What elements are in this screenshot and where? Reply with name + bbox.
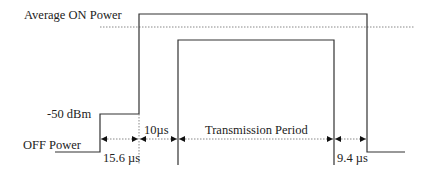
minus-50-dbm-label: -50 dBm <box>47 108 91 121</box>
duration-9-4us-label: 9.4 µs <box>337 152 368 165</box>
transmission-period-box <box>178 40 334 165</box>
transmission-period-label: Transmission Period <box>202 124 311 137</box>
average-on-power-label: Average ON Power <box>24 9 122 22</box>
off-power-label: OFF Power <box>23 139 81 152</box>
duration-10us-label: 10µs <box>144 124 169 137</box>
duration-15-6us-label: 15.6 µs <box>103 152 140 165</box>
